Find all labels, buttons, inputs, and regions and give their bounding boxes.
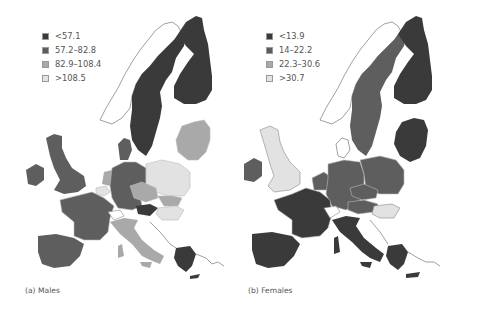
legend-females: <13.9 14–22.2 22.3–30.6 >30.7 [266, 29, 320, 85]
legend-label: >108.5 [55, 73, 86, 83]
legend-swatch [266, 61, 273, 68]
region-spain [252, 232, 300, 268]
legend-swatch [266, 47, 273, 54]
legend-item: 14–22.2 [266, 43, 320, 57]
region-austria [136, 204, 158, 216]
legend-item: 57.2–82.8 [42, 43, 101, 57]
region-france [60, 192, 114, 240]
legend-item: >30.7 [266, 71, 320, 85]
map-panel-females: <13.9 14–22.2 22.3–30.6 >30.7 (b) Female… [240, 0, 480, 309]
map-panel-males: <57.1 57.2–82.8 82.9–108.4 >108.5 (a) Ma… [0, 0, 240, 309]
region-sardinia [334, 236, 340, 254]
caption-females: (b) Females [248, 286, 293, 295]
region-italy [332, 216, 384, 262]
caption-males: (a) Males [25, 286, 60, 295]
legend-label: <57.1 [55, 31, 80, 41]
region-denmark [336, 138, 350, 158]
legend-label: 22.3–30.6 [279, 59, 320, 69]
region-uk [260, 126, 300, 192]
legend-item: <13.9 [266, 29, 320, 43]
europe-map-males [0, 0, 240, 309]
legend-swatch [266, 75, 273, 82]
legend-item: 82.9–108.4 [42, 57, 101, 71]
legend-label: 82.9–108.4 [55, 59, 101, 69]
region-switzerland [108, 210, 124, 220]
region-belgium [96, 186, 110, 196]
region-denmark [118, 138, 132, 160]
region-baltics [176, 120, 210, 160]
legend-swatch [42, 75, 49, 82]
region-baltics [394, 118, 428, 162]
region-hungary [156, 206, 184, 220]
region-greece [386, 244, 408, 270]
legend-item: 22.3–30.6 [266, 57, 320, 71]
region-crete [190, 274, 200, 279]
region-ireland [244, 158, 262, 182]
region-france [274, 188, 332, 238]
region-hungary [372, 204, 400, 218]
legend-item: <57.1 [42, 29, 101, 43]
region-greece [174, 246, 196, 272]
region-spain [38, 234, 84, 268]
legend-label: 57.2–82.8 [55, 45, 96, 55]
legend-label: <13.9 [279, 31, 304, 41]
legend-males: <57.1 57.2–82.8 82.9–108.4 >108.5 [42, 29, 101, 85]
legend-item: >108.5 [42, 71, 101, 85]
legend-swatch [266, 33, 273, 40]
legend-label: >30.7 [279, 73, 304, 83]
legend-swatch [42, 47, 49, 54]
region-ireland [26, 164, 44, 186]
region-slovakia [158, 196, 182, 206]
region-sicily [140, 262, 152, 268]
region-crete [406, 272, 420, 278]
region-sardinia [118, 244, 124, 258]
legend-swatch [42, 61, 49, 68]
region-uk [46, 134, 86, 194]
legend-swatch [42, 33, 49, 40]
legend-label: 14–22.2 [279, 45, 312, 55]
region-sicily [360, 262, 372, 268]
